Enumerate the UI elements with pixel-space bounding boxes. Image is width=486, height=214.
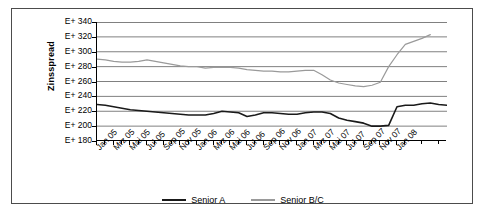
x-axis-minor-tick <box>438 141 439 144</box>
y-axis-tick-label: E+ 260 <box>36 76 92 86</box>
y-axis-tick-label: E+ 180 <box>36 135 92 145</box>
y-axis-tick-label: E+ 340 <box>36 16 92 26</box>
x-axis-labels: Jan 05Mrz 05Mai 05Jul 05Sep 05Nov 05Jan … <box>96 145 447 191</box>
series-svg <box>97 22 447 141</box>
y-axis-tick-label: E+ 320 <box>36 31 92 41</box>
legend-swatch-line <box>162 199 186 201</box>
y-axis-tick-label: E+ 300 <box>36 46 92 56</box>
legend-label: Senior B/C <box>280 195 324 205</box>
legend-swatch-line <box>251 199 275 201</box>
series-line <box>97 103 447 126</box>
chart-legend: Senior ASenior B/C <box>12 193 474 207</box>
chart-frame: Zinsspread E+ 340E+ 320E+ 300E+ 280E+ 26… <box>11 8 473 204</box>
plot-canvas <box>96 22 446 141</box>
series-line <box>97 35 430 87</box>
y-axis-tick-label: E+ 200 <box>36 120 92 130</box>
x-axis-minor-tick <box>421 141 422 144</box>
y-axis-tick-label: E+ 240 <box>36 90 92 100</box>
y-axis-tick-label: E+ 280 <box>36 61 92 71</box>
legend-label: Senior A <box>191 195 225 205</box>
y-axis-tick-label: E+ 220 <box>36 105 92 115</box>
legend-item[interactable]: Senior A <box>162 195 225 205</box>
y-axis-labels: E+ 340E+ 320E+ 300E+ 280E+ 260E+ 240E+ 2… <box>34 22 92 141</box>
legend-item[interactable]: Senior B/C <box>251 195 324 205</box>
plot-area <box>96 22 446 141</box>
